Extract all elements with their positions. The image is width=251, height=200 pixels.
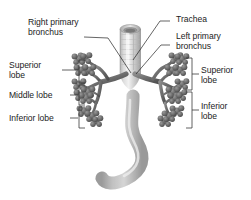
label-left-lung-inferior-lobe: Inferior lobe [201, 101, 227, 122]
label-right-primary-bronchus: Right primary bronchus [28, 17, 78, 38]
label-right-lung-inferior-lobe: Inferior lobe [9, 113, 54, 123]
trachea [120, 25, 141, 90]
label-right-lung-middle-lobe: Middle lobe [9, 90, 52, 100]
bracket-left-inferior-lobe [186, 92, 192, 128]
label-left-primary-bronchus: Left primary bronchus [176, 31, 221, 52]
right-lobe-brackets [186, 58, 199, 128]
anatomy-figure: Right primary bronchus Trachea Left prim… [0, 0, 251, 200]
esophagus [102, 96, 142, 183]
leader-left-primary-bronchus [136, 45, 170, 74]
label-trachea: Trachea [176, 14, 207, 24]
label-right-lung-superior-lobe: Superior lobe [9, 60, 41, 81]
label-left-lung-superior-lobe: Superior lobe [201, 65, 233, 86]
